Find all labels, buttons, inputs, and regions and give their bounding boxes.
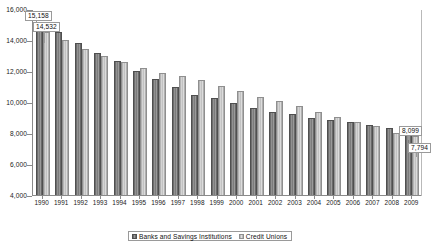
legend-item-label: Credit Unions — [246, 233, 287, 240]
chart-legend: Banks and Savings InstitutionsCredit Uni… — [128, 231, 292, 241]
bar-banks-1993 — [94, 53, 101, 195]
bar-banks-1990 — [36, 22, 43, 195]
bar-credit-unions-1992 — [82, 49, 89, 195]
y-axis-tick-label: 12,000 — [0, 69, 27, 75]
x-axis: 1990199119921993199419951996199719981999… — [32, 199, 421, 211]
bar-banks-1997 — [172, 87, 179, 195]
bar-credit-unions-1997 — [179, 76, 186, 195]
bar-credit-unions-2001 — [257, 97, 264, 195]
credit-unions-swatch-icon — [239, 234, 244, 239]
bar-banks-1991 — [55, 32, 62, 195]
x-axis-tick-mark — [120, 196, 121, 199]
data-label-callout: 7,794 — [408, 143, 431, 153]
bar-credit-unions-1994 — [121, 62, 128, 195]
bar-banks-1994 — [114, 61, 121, 195]
plot-area — [32, 10, 421, 196]
bar-banks-2000 — [230, 103, 237, 195]
bar-banks-2004 — [308, 118, 315, 195]
data-label-callout: 14,532 — [33, 22, 60, 32]
bar-banks-2009 — [405, 131, 412, 195]
y-axis-tick-label: 4,000 — [0, 193, 27, 199]
bar-banks-1996 — [152, 79, 159, 195]
x-axis-tick-mark — [139, 196, 140, 199]
x-axis-tick-mark — [353, 196, 354, 199]
x-axis-tick-label: 2009 — [399, 199, 423, 207]
x-axis-tick-mark — [81, 196, 82, 199]
y-axis-tick-label: 16,000 — [0, 7, 27, 13]
data-label-callout: 8,099 — [399, 126, 422, 136]
legend-item: Banks and Savings Institutions — [132, 233, 232, 240]
x-axis-tick-mark — [392, 196, 393, 199]
x-axis-tick-mark — [256, 196, 257, 199]
bar-credit-unions-2000 — [237, 91, 244, 195]
y-axis-tick-mark — [27, 196, 32, 197]
x-axis-tick-mark — [178, 196, 179, 199]
bar-credit-unions-2002 — [276, 101, 283, 195]
x-axis-tick-mark — [42, 196, 43, 199]
x-axis-tick-mark — [217, 196, 218, 199]
data-label-callout: 15,158 — [25, 11, 52, 21]
bar-credit-unions-2003 — [296, 106, 303, 195]
y-axis-tick-label: 10,000 — [0, 100, 27, 106]
bar-credit-unions-1996 — [159, 73, 166, 195]
x-axis-tick-mark — [100, 196, 101, 199]
bar-credit-unions-1999 — [218, 86, 225, 195]
x-axis-tick-mark — [333, 196, 334, 199]
bar-banks-1999 — [211, 98, 218, 195]
bar-chart: 16,00014,00012,00010,0008,0006,0004,000 … — [0, 0, 442, 251]
y-axis-tick-label: 6,000 — [0, 162, 27, 168]
bar-credit-unions-2004 — [315, 112, 322, 195]
bar-banks-2006 — [347, 122, 354, 195]
bar-banks-1998 — [191, 95, 198, 195]
y-axis-tick-label: 8,000 — [0, 131, 27, 137]
x-axis-tick-mark — [295, 196, 296, 199]
plot-right-border — [421, 10, 422, 196]
x-axis-tick-mark — [275, 196, 276, 199]
bar-credit-unions-2005 — [334, 117, 341, 195]
bar-banks-2008 — [386, 128, 393, 195]
x-axis-tick-mark — [372, 196, 373, 199]
data-label-leader-line — [408, 135, 409, 140]
bar-credit-unions-1993 — [101, 56, 108, 195]
bar-credit-unions-1991 — [62, 40, 69, 195]
x-axis-tick-mark — [314, 196, 315, 199]
x-axis-tick-mark — [61, 196, 62, 199]
data-label-leader-line — [44, 31, 45, 43]
bar-credit-unions-2006 — [354, 122, 361, 195]
bar-banks-2005 — [327, 120, 334, 195]
y-axis-tick-label: 14,000 — [0, 38, 27, 44]
bar-banks-2007 — [366, 125, 373, 195]
bar-credit-unions-2008 — [393, 133, 400, 195]
x-axis-tick-mark — [158, 196, 159, 199]
legend-item: Credit Unions — [239, 233, 287, 240]
legend-item-label: Banks and Savings Institutions — [139, 233, 232, 240]
bar-banks-2003 — [289, 114, 296, 195]
bar-banks-2001 — [250, 108, 257, 195]
bar-banks-2002 — [269, 112, 276, 195]
banks-swatch-icon — [132, 234, 137, 239]
data-label-leader-line — [416, 152, 417, 157]
bar-credit-unions-1995 — [140, 68, 147, 195]
bar-credit-unions-1998 — [198, 80, 205, 195]
bar-credit-unions-2007 — [373, 126, 380, 195]
x-axis-tick-mark — [197, 196, 198, 199]
bar-banks-1992 — [75, 43, 82, 195]
bar-credit-unions-1990 — [43, 32, 50, 195]
bar-banks-1995 — [133, 71, 140, 195]
x-axis-tick-mark — [236, 196, 237, 199]
x-axis-tick-mark — [411, 196, 412, 199]
